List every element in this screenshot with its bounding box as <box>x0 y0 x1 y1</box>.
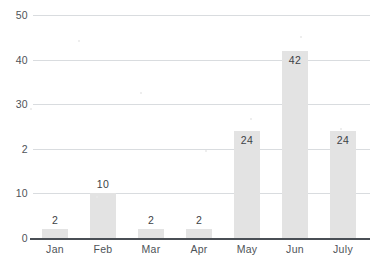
paper-speckle <box>250 118 252 120</box>
y-axis-tick-label: 0 <box>0 232 28 244</box>
gridline <box>33 15 370 16</box>
x-axis-tick-label-july: July <box>333 243 353 255</box>
bar-apr[interactable] <box>186 229 212 238</box>
gridline <box>33 60 370 61</box>
bar-feb[interactable] <box>90 193 116 238</box>
x-axis-line <box>30 238 370 240</box>
paper-speckle <box>78 40 80 42</box>
bar-value-label: 2 <box>196 214 202 226</box>
bar-jun[interactable] <box>282 51 308 238</box>
gridline <box>33 149 370 150</box>
x-axis-tick-label-apr: Apr <box>190 243 207 255</box>
bar-value-label: 10 <box>97 178 109 190</box>
paper-speckle <box>340 128 342 130</box>
bar-july[interactable] <box>330 131 356 238</box>
bar-value-label: 2 <box>148 214 154 226</box>
paper-speckle <box>300 36 302 38</box>
gridline <box>33 193 370 194</box>
bar-jan[interactable] <box>42 229 68 238</box>
y-axis-tick-label: 40 <box>0 54 28 66</box>
bar-mar[interactable] <box>138 229 164 238</box>
x-axis-tick-label-mar: Mar <box>142 243 161 255</box>
paper-speckle <box>205 150 207 152</box>
y-axis-tick-label: 10 <box>0 187 28 199</box>
paper-speckle <box>30 108 32 110</box>
x-axis-tick-label-feb: Feb <box>94 243 113 255</box>
bar-value-label: 24 <box>241 134 253 146</box>
bar-may[interactable] <box>234 131 260 238</box>
bar-value-label: 42 <box>289 54 301 66</box>
y-axis-tick-label: 30 <box>0 98 28 110</box>
y-axis-tick-label: 2 <box>0 143 28 155</box>
bar-value-label: 2 <box>52 214 58 226</box>
paper-speckle <box>140 92 142 94</box>
x-axis-tick-label-jan: Jan <box>46 243 64 255</box>
y-axis-tick-label: 50 <box>0 9 28 21</box>
bar-chart: 01023040502Jan10Feb2Mar2Apr24May42Jun24J… <box>0 0 380 263</box>
bar-value-label: 24 <box>337 134 349 146</box>
gridline <box>33 104 370 105</box>
x-axis-tick-label-may: May <box>237 243 258 255</box>
x-axis-tick-label-jun: Jun <box>286 243 304 255</box>
plot-area: 01023040502Jan10Feb2Mar2Apr24May42Jun24J… <box>0 0 380 263</box>
